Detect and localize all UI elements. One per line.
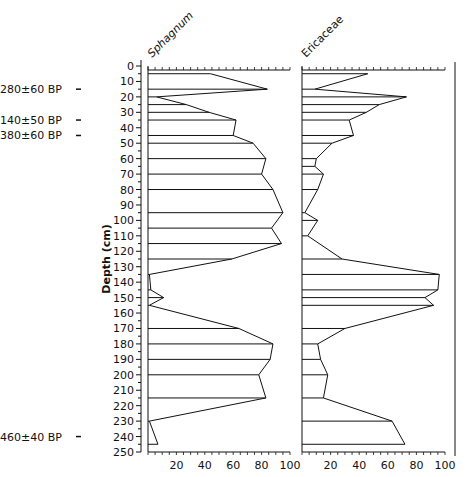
depth-tick-label: 170 <box>113 322 134 335</box>
depth-tick-label: 40 <box>120 122 134 135</box>
radiocarbon-date-label: 2380±60 BP <box>0 129 62 142</box>
depth-tick-label: 120 <box>113 245 134 258</box>
x-tick-label: 80 <box>255 459 269 472</box>
x-tick-label: 40 <box>352 459 366 472</box>
depth-tick-label: 210 <box>113 384 134 397</box>
depth-tick-label: 190 <box>113 353 134 366</box>
depth-tick-label: 240 <box>113 431 134 444</box>
depth-tick-label: 70 <box>120 168 134 181</box>
depth-tick-label: 130 <box>113 261 134 274</box>
radiocarbon-date-label: 4460±40 BP <box>0 431 62 444</box>
pollen-diagram: 0102030405060708090100110120130140150160… <box>0 0 471 477</box>
depth-tick-label: 140 <box>113 276 134 289</box>
x-tick-label: 60 <box>381 459 395 472</box>
depth-tick-label: 110 <box>113 230 134 243</box>
radiocarbon-date-label: 2140±50 BP <box>0 114 62 127</box>
x-tick-label: 100 <box>280 459 301 472</box>
depth-tick-label: 60 <box>120 153 134 166</box>
taxon-title: Sphagnum <box>145 9 196 60</box>
radiocarbon-date-label: 280±60 BP <box>0 83 62 96</box>
x-tick-label: 100 <box>435 459 456 472</box>
depth-tick-label: 50 <box>120 137 134 150</box>
x-tick-label: 40 <box>198 459 212 472</box>
depth-tick-label: 100 <box>113 214 134 227</box>
depth-tick-label: 150 <box>113 292 134 305</box>
depth-tick-label: 30 <box>120 106 134 119</box>
depth-tick-label: 80 <box>120 184 134 197</box>
depth-tick-label: 180 <box>113 338 134 351</box>
depth-tick-label: 250 <box>113 446 134 459</box>
depth-tick-label: 230 <box>113 415 134 428</box>
taxon-title: Ericaceae <box>299 13 346 60</box>
panel-ericaceae: 20406080100Ericaceae <box>299 13 456 472</box>
depth-tick-label: 160 <box>113 307 134 320</box>
x-tick-label: 80 <box>409 459 423 472</box>
depth-tick-label: 0 <box>127 60 134 73</box>
depth-tick-label: 20 <box>120 91 134 104</box>
x-tick-label: 20 <box>169 459 183 472</box>
y-axis-label: Depth (cm) <box>100 224 113 293</box>
depth-tick-label: 200 <box>113 369 134 382</box>
x-tick-label: 60 <box>226 459 240 472</box>
x-tick-label: 20 <box>324 459 338 472</box>
depth-tick-label: 220 <box>113 400 134 413</box>
panel-sphagnum: 20406080100Sphagnum <box>145 9 301 472</box>
depth-tick-label: 90 <box>120 199 134 212</box>
depth-tick-label: 10 <box>120 75 134 88</box>
